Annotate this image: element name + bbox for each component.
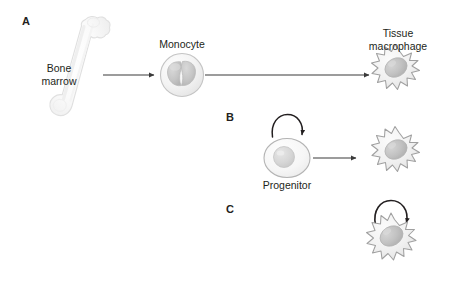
figure-root: A B C Bone marrow Monocyte Tissue macrop… (0, 0, 455, 287)
self-renewal-arrow-b (272, 115, 302, 138)
progenitor-cell (264, 139, 310, 178)
label-tissue-macrophage: Tissue macrophage (352, 27, 444, 52)
tissue-macrophage-cell-b (372, 127, 420, 172)
panel-label-a: A (22, 15, 30, 27)
label-progenitor: Progenitor (247, 179, 327, 192)
panel-label-c: C (226, 203, 234, 215)
tissue-macrophage-cell-c (367, 213, 417, 260)
label-bone-marrow: Bone marrow (28, 62, 90, 87)
monocyte-cell (161, 54, 204, 97)
panel-label-b: B (226, 111, 234, 123)
label-monocyte: Monocyte (142, 38, 222, 51)
